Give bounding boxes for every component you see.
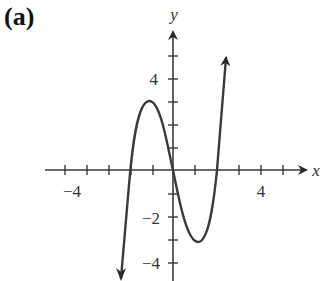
x-axis-label: x [311, 161, 320, 180]
y-axis: 4 −2 −4 y [142, 5, 178, 281]
x-tick-label-4: 4 [257, 182, 266, 201]
y-tick-label-neg4: −4 [142, 254, 161, 273]
x-axis: −4 4 x [45, 161, 320, 201]
y-tick-label-neg2: −2 [142, 209, 160, 228]
x-tick-label-neg4: −4 [63, 182, 82, 201]
y-axis-label: y [168, 5, 178, 24]
y-tick-label-4: 4 [150, 70, 159, 89]
cubic-graph: −4 4 x 4 −2 −4 y [0, 0, 322, 281]
